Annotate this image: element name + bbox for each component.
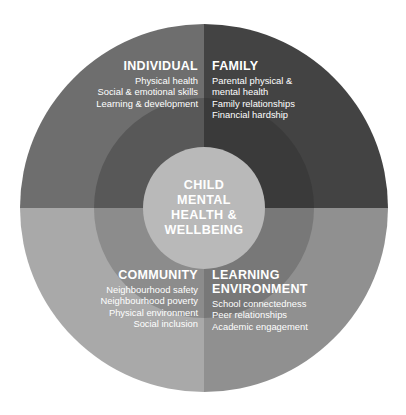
center-hub-circle bbox=[143, 147, 265, 269]
wheel-graphic bbox=[0, 0, 406, 415]
wheel-diagram: INDIVIDUAL Physical health Social & emot… bbox=[0, 0, 406, 415]
